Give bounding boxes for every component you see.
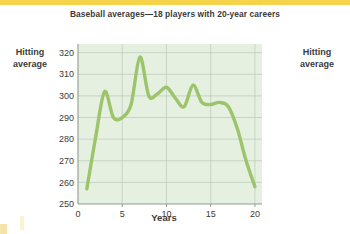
y-axis-label-left: Hitting average [2,47,58,70]
y-tick-label: 300 [59,91,74,101]
y-axis-label-right-line1: Hitting [288,47,346,59]
y-tick-label: 270 [59,156,74,166]
chart-figure: Baseball averages—18 players with 20-yea… [0,0,350,234]
y-tick-label: 320 [59,48,74,58]
page-top-accent-strip [0,0,350,5]
y-tick-label: 310 [59,69,74,79]
y-tick-label: 250 [59,199,74,209]
y-tick-label: 260 [59,178,74,188]
chart-svg: 25026027028029030031032005101520 [58,36,270,232]
y-axis-label-left-line1: Hitting [2,47,58,59]
y-axis-label-left-line2: average [2,59,58,71]
chart-title: Baseball averages—18 players with 20-yea… [0,9,350,19]
x-axis-title: Years [58,212,270,223]
plot-area: 25026027028029030031032005101520 [58,36,270,232]
y-axis-label-right: Hitting average [288,47,346,70]
y-axis-label-right-line2: average [288,59,346,71]
y-tick-label: 290 [59,113,74,123]
page-corner-mark [0,224,7,234]
page-corner-mark-secondary [20,216,24,230]
y-tick-label: 280 [59,134,74,144]
